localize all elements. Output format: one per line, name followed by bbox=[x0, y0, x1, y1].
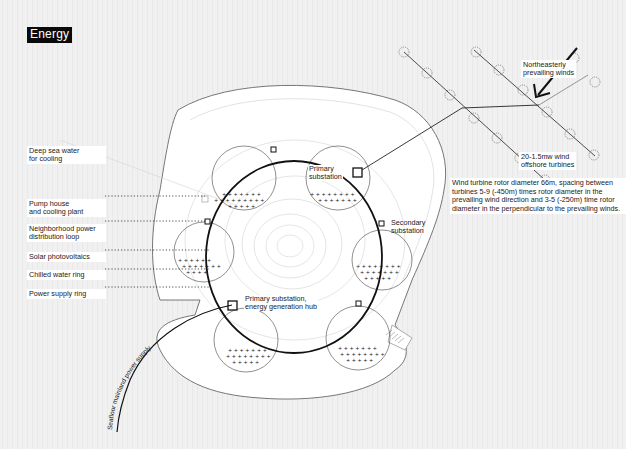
pump-house-marker bbox=[202, 196, 208, 202]
seafloor-cable-label: Seafloor mainland power supply bbox=[106, 343, 153, 430]
label-prevailing-winds: Northeasterly prevailing winds bbox=[521, 60, 576, 78]
label-pump-house: Pump house and cooling plant bbox=[27, 199, 106, 217]
label-secondary-substation: Secondary substation bbox=[391, 219, 425, 235]
svg-text:+ + + + +: + + + + + bbox=[232, 359, 259, 365]
svg-text:+ + + + + + +: + + + + + + + bbox=[318, 197, 357, 203]
svg-text:+ + + + +: + + + + + bbox=[364, 275, 391, 281]
svg-text:+ + + + +: + + + + + bbox=[346, 357, 373, 363]
wind-label-leader bbox=[539, 75, 588, 105]
label-deep-sea-water: Deep sea water for cooling bbox=[27, 146, 106, 164]
svg-text:+ + + +: + + + + bbox=[186, 269, 208, 275]
label-chilled-water-ring: Chilled water ring bbox=[27, 270, 106, 280]
label-power-supply-ring: Power supply ring bbox=[27, 289, 106, 299]
svg-text:+ + + + +: + + + + + bbox=[228, 203, 255, 209]
label-primary-substation: Primary substation bbox=[308, 165, 343, 181]
wind-turbine-note: Wind turbine rotor diameter 66m, spacing… bbox=[450, 178, 626, 214]
label-neighborhood-power: Neighborhood power distribution loop bbox=[27, 224, 106, 242]
label-solar-photovoltaics: Solar photovoltaics bbox=[27, 252, 106, 262]
label-primary-hub: Primary substation, energy generation hu… bbox=[244, 295, 318, 311]
label-offshore-turbines: 20-1.5mw wind offshore turbines bbox=[519, 152, 576, 170]
